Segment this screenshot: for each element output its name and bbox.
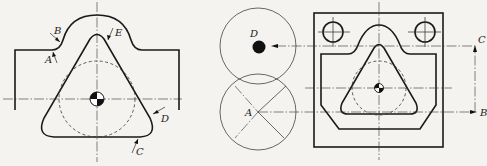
engineering-drawing: B A E D C D xyxy=(0,0,487,166)
leader-B: B xyxy=(50,25,61,42)
svg-text:B: B xyxy=(53,25,61,36)
center-mark-icon xyxy=(90,92,104,106)
leader-A: A xyxy=(44,52,57,65)
diagonal-line xyxy=(258,112,284,138)
svg-text:D: D xyxy=(249,28,258,39)
leader-C: C xyxy=(132,139,144,157)
svg-text:E: E xyxy=(114,27,123,38)
svg-text:D: D xyxy=(160,113,169,124)
svg-text:C: C xyxy=(136,146,144,157)
diagonal-line xyxy=(258,86,286,112)
svg-text:B: B xyxy=(479,107,487,118)
svg-text:A: A xyxy=(44,54,52,65)
leader-D: D xyxy=(153,107,169,124)
svg-text:C: C xyxy=(478,34,486,45)
right-view: D A xyxy=(220,2,487,160)
arrow-icon xyxy=(271,44,278,48)
svg-text:A: A xyxy=(244,107,252,118)
left-view: B A E D C xyxy=(3,2,182,162)
point-D-dot xyxy=(253,41,266,54)
arrow-icon xyxy=(470,110,477,114)
leader-E: E xyxy=(107,27,123,40)
arrow-icon xyxy=(473,45,477,52)
